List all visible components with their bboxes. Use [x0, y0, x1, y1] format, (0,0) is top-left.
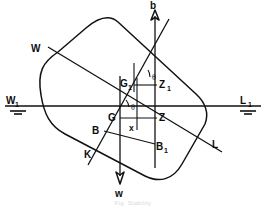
label-heel-angle-upper: θ: [152, 73, 156, 82]
hull-outline-group: [40, 18, 207, 180]
inclined-waterline-group: [48, 47, 222, 152]
label-weight-force: w: [114, 188, 123, 199]
figure-caption: Fig. Stability: [0, 200, 266, 206]
label-buoyancy-force: b: [150, 0, 156, 11]
label-centre-gravity-shifted-sub: 1: [128, 84, 132, 91]
stability-diagram: b w W 1 L 1 W L K G G 1 B B 1: [0, 0, 266, 207]
label-waterline-left-inclined: W: [31, 43, 41, 54]
label-centre-gravity-shifted: G: [120, 78, 128, 89]
label-righting-point-upper: Z: [159, 79, 165, 90]
label-shift-distance: x: [129, 123, 134, 133]
inclined-waterline: [48, 47, 222, 152]
label-righting-point-upper-sub: 1: [167, 85, 171, 92]
label-heel-angle-lower: θ: [131, 103, 135, 112]
labels-group: b w W 1 L 1 W L K G G 1 B B 1: [6, 0, 252, 199]
hull-outline: [40, 18, 207, 180]
label-centre-buoyancy: B: [92, 125, 99, 136]
label-waterline-right-inclined: L: [212, 139, 218, 150]
figure-root: b w W 1 L 1 W L K G G 1 B B 1: [0, 0, 266, 207]
label-waterline-right-upright-sub: 1: [248, 101, 252, 108]
label-righting-point: Z: [159, 112, 165, 123]
label-keel: K: [84, 149, 92, 160]
label-centre-buoyancy-shifted-sub: 1: [164, 147, 168, 154]
label-centre-buoyancy-shifted: B: [156, 141, 163, 152]
label-waterline-right-upright: L: [240, 95, 246, 106]
label-centre-gravity: G: [108, 112, 116, 123]
label-waterline-left-upright-sub: 1: [15, 101, 19, 108]
heel-angle-arc-upper: [148, 70, 150, 77]
